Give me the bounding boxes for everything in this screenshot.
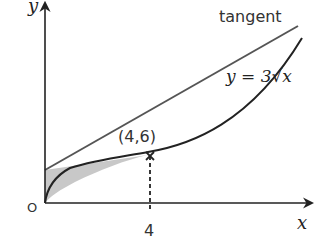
- x-tick-label-4: 4: [144, 221, 154, 240]
- curve-upper-segment: [148, 38, 302, 153]
- y-axis-label: y: [27, 0, 39, 16]
- curve-label: y = 3√x: [225, 66, 292, 86]
- x-axis-label: x: [297, 212, 307, 233]
- tangent-label: tangent: [219, 7, 282, 26]
- curve-y-3-sqrt-x: [45, 38, 302, 203]
- origin-label: O: [27, 200, 37, 215]
- tangent-line: [45, 26, 298, 170]
- diagram-canvas: y x O 4 (4,6) tangent y = 3√x: [0, 0, 319, 248]
- point-label: (4,6): [118, 127, 156, 146]
